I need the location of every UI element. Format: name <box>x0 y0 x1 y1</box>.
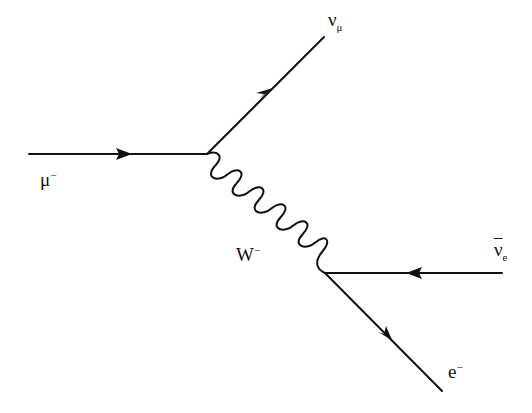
w-boson-label: W− <box>236 245 260 264</box>
w-boson-wavy-line <box>207 153 327 273</box>
muon-neutrino-line <box>207 37 324 154</box>
electron-line <box>325 273 442 391</box>
electron-label: e− <box>448 362 463 381</box>
muon-label: μ− <box>40 170 56 189</box>
muon-neutrino-label: νμ <box>328 10 343 29</box>
feynman-diagram: μ− νμ W− νe e− <box>0 0 532 413</box>
electron-antineutrino-label: νe <box>494 240 507 259</box>
diagram-canvas <box>0 0 532 413</box>
